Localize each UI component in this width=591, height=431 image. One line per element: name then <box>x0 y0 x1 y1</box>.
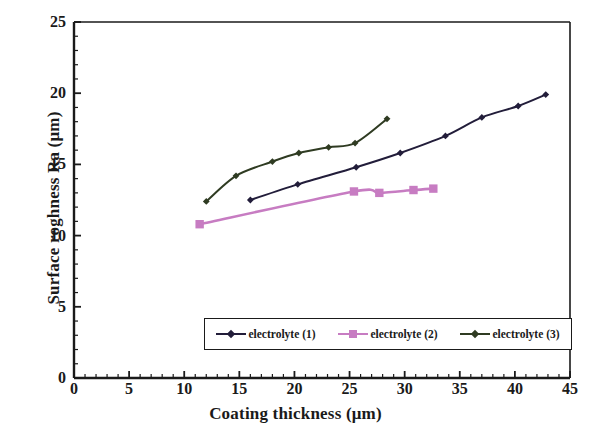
x-tick-label: 5 <box>109 380 149 398</box>
data-point-marker <box>353 164 360 171</box>
data-point-marker <box>375 189 383 197</box>
legend-entry-3: electrolyte (3) <box>460 328 559 340</box>
x-tick-label: 30 <box>385 380 425 398</box>
data-point-marker <box>247 197 254 204</box>
legend-entry-2: electrolyte (2) <box>338 328 437 340</box>
data-point-marker <box>350 187 358 195</box>
series-line-3 <box>206 119 387 202</box>
x-tick-label: 15 <box>219 380 259 398</box>
x-tick-label: 35 <box>440 380 480 398</box>
plot-canvas <box>0 0 591 431</box>
data-point-marker <box>442 133 449 140</box>
y-tick-label: 25 <box>26 13 66 31</box>
data-point-marker <box>542 91 549 98</box>
legend-entry-1: electrolyte (1) <box>216 328 315 340</box>
data-point-marker <box>409 186 417 194</box>
y-tick-label: 15 <box>26 155 66 173</box>
data-point-marker <box>397 150 404 157</box>
y-tick-label: 20 <box>26 84 66 102</box>
x-tick-label: 20 <box>274 380 314 398</box>
chart-figure: Coating thickness (μm) Surface roghness … <box>0 0 591 431</box>
legend-marker <box>349 330 357 338</box>
x-tick-label: 45 <box>550 380 590 398</box>
legend-label: electrolyte (1) <box>248 328 315 340</box>
data-point-marker <box>515 103 522 110</box>
legend-marker <box>227 330 235 338</box>
legend-label: electrolyte (3) <box>492 328 559 340</box>
x-axis-title: Coating thickness (μm) <box>0 404 591 424</box>
data-point-marker <box>325 144 332 151</box>
y-tick-label: 0 <box>26 369 66 387</box>
data-point-marker <box>429 184 437 192</box>
x-tick-label: 25 <box>330 380 370 398</box>
legend-label: electrolyte (2) <box>370 328 437 340</box>
legend-swatch-diamond-icon <box>460 328 490 340</box>
series-line-2 <box>200 189 434 225</box>
data-point-marker <box>295 150 302 157</box>
data-point-marker <box>269 158 276 165</box>
x-tick-label: 10 <box>164 380 204 398</box>
x-tick-label: 40 <box>495 380 535 398</box>
y-tick-label: 5 <box>26 298 66 316</box>
y-tick-label: 10 <box>26 227 66 245</box>
data-point-marker <box>195 220 203 228</box>
data-point-marker <box>478 114 485 121</box>
legend-marker <box>471 330 479 338</box>
chart-legend: electrolyte (1)electrolyte (2)electrolyt… <box>204 318 572 350</box>
legend-swatch-diamond-icon <box>216 328 246 340</box>
legend-swatch-square-icon <box>338 328 368 340</box>
data-point-marker <box>294 181 301 188</box>
